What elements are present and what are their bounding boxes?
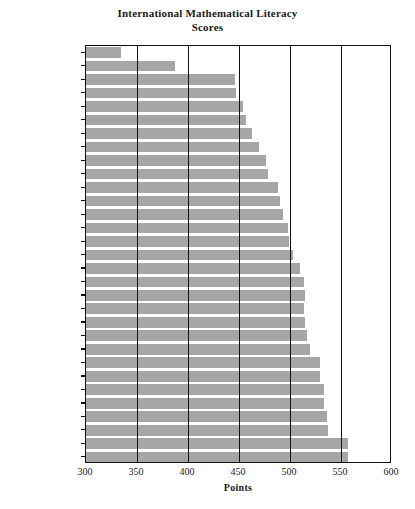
x-tick-300: 300 (65, 466, 105, 477)
bar (86, 142, 259, 153)
x-axis-title: Points (85, 482, 391, 493)
bar (86, 223, 288, 234)
bar (86, 47, 121, 58)
bar (86, 303, 304, 314)
bar (86, 330, 307, 341)
chart-title-line-1: International Mathematical Literacy (0, 6, 415, 20)
gridline-550 (341, 46, 342, 462)
bar (86, 452, 348, 463)
gridline-350 (137, 46, 138, 462)
bar (86, 101, 243, 112)
gridline-400 (188, 46, 189, 462)
chart-figure: International Mathematical Literacy Scor… (0, 0, 415, 509)
bar (86, 250, 293, 261)
x-tick-400: 400 (167, 466, 207, 477)
bar (86, 74, 235, 85)
x-tick-350: 350 (116, 466, 156, 477)
bar (86, 277, 304, 288)
x-tick-500: 500 (269, 466, 309, 477)
bar (86, 438, 348, 449)
bar (86, 425, 328, 436)
bar (86, 169, 268, 180)
bar (86, 196, 280, 207)
x-tick-450: 450 (218, 466, 258, 477)
bar (86, 263, 300, 274)
gridline-500 (290, 46, 291, 462)
x-axis-tick-labels: 300350400450500550600 (0, 466, 415, 480)
bar (86, 317, 305, 328)
x-tick-600: 600 (371, 466, 411, 477)
bar (86, 290, 305, 301)
chart-title-line-2: Scores (0, 20, 415, 34)
bar (86, 357, 320, 368)
bar (86, 384, 324, 395)
bar (86, 398, 324, 409)
x-tick-550: 550 (320, 466, 360, 477)
bar (86, 344, 310, 355)
bar (86, 209, 283, 220)
bar (86, 115, 246, 126)
bar (86, 61, 175, 72)
bar (86, 88, 236, 99)
bar (86, 182, 278, 193)
gridline-450 (239, 46, 240, 462)
chart-title: International Mathematical Literacy Scor… (0, 6, 415, 34)
bars-layer (86, 46, 390, 462)
bar (86, 371, 320, 382)
plot-area (85, 45, 391, 463)
bar (86, 128, 252, 139)
